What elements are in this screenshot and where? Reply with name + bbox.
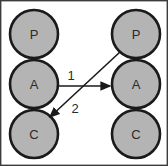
node-label-right-a: A <box>132 77 141 92</box>
node-label-right-p: P <box>132 27 141 42</box>
edge-1-group: 1 <box>59 68 110 87</box>
node-right-a: A <box>112 60 160 108</box>
edge-2-label: 2 <box>71 101 78 116</box>
node-left-a: A <box>10 60 58 108</box>
left-column-group: P A C <box>10 10 58 158</box>
node-label-right-c: C <box>131 127 140 142</box>
edge-2-arrow <box>50 52 120 117</box>
node-right-c: C <box>112 110 160 158</box>
right-column-group: P A C <box>112 10 160 158</box>
node-label-left-p: P <box>30 27 39 42</box>
diagram-canvas: P A C P A C <box>0 0 168 166</box>
edge-1-label: 1 <box>67 68 74 83</box>
diagram-svg: P A C P A C <box>0 0 168 166</box>
edge-2-group: 2 <box>50 52 120 117</box>
node-left-p: P <box>10 10 58 58</box>
node-label-left-a: A <box>30 77 39 92</box>
node-label-left-c: C <box>29 127 38 142</box>
node-right-p: P <box>112 10 160 58</box>
